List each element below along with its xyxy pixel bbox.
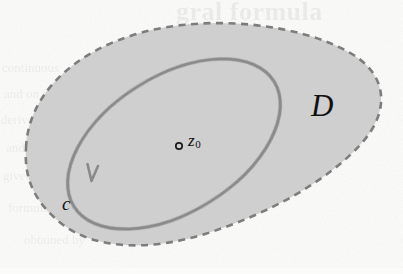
point-z0-label-base: z (188, 131, 195, 150)
region-d-label: D (311, 88, 334, 124)
figure-canvas: gral formula continuous and on its deriv… (0, 0, 403, 274)
point-z0-label: z0 (188, 131, 201, 151)
point-z0-label-subscript: 0 (195, 138, 201, 150)
contour-c-label: c (62, 193, 70, 215)
diagram-svg (0, 0, 403, 274)
